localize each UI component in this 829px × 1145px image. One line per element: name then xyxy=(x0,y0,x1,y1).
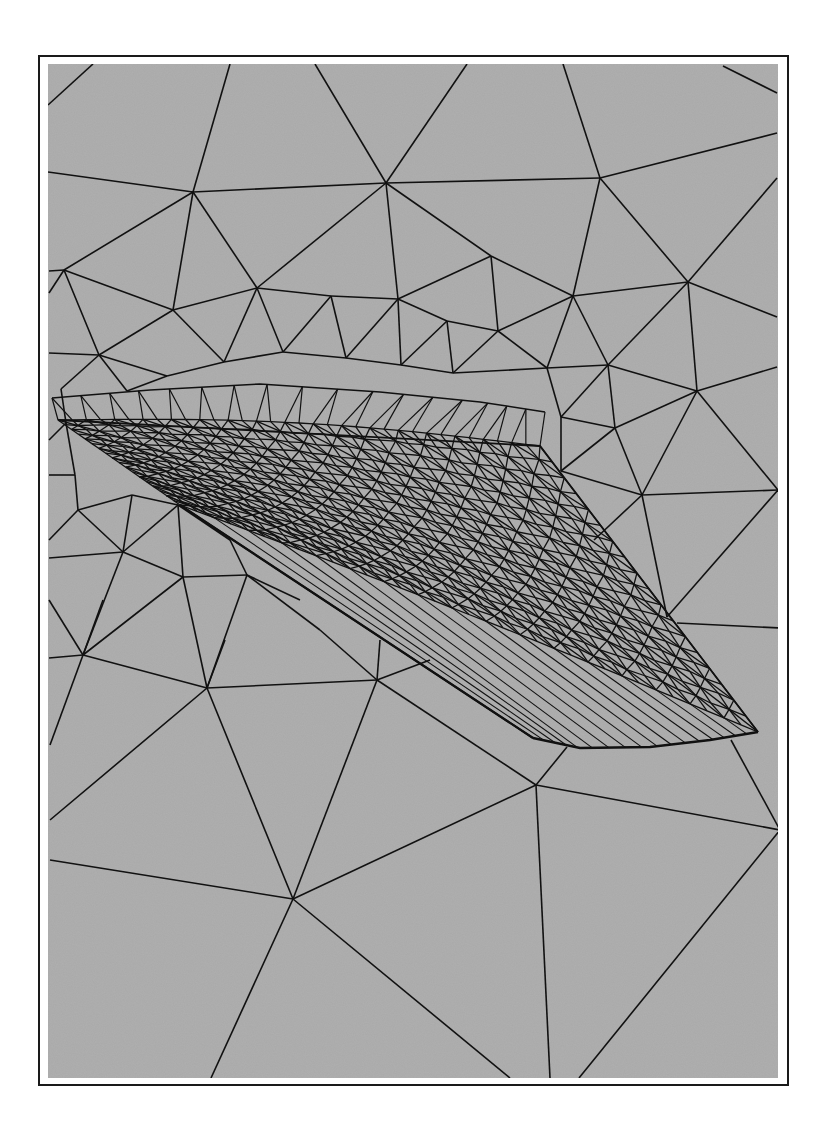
mesh-edge xyxy=(299,423,313,424)
mesh-edge xyxy=(233,518,242,519)
grain-texture xyxy=(48,64,778,1078)
mesh-edge xyxy=(49,270,64,271)
mesh-figure xyxy=(0,0,829,1145)
mesh-edge xyxy=(271,422,285,423)
